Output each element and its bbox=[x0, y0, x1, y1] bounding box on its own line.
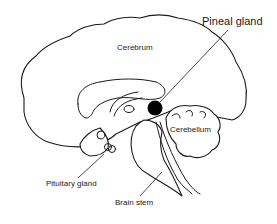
brain-diagram bbox=[0, 0, 277, 224]
pituitary-body bbox=[109, 146, 116, 153]
label-pituitary-gland: Pituitary gland bbox=[46, 180, 97, 188]
pineal-gland-dot bbox=[148, 101, 163, 116]
label-cerebrum: Cerebrum bbox=[117, 44, 153, 52]
label-pineal-gland: Pineal gland bbox=[202, 16, 263, 27]
pituitary-leader bbox=[78, 154, 104, 178]
label-cerebellum: Cerebellum bbox=[170, 126, 211, 134]
label-brain-stem: Brain stem bbox=[115, 199, 153, 207]
